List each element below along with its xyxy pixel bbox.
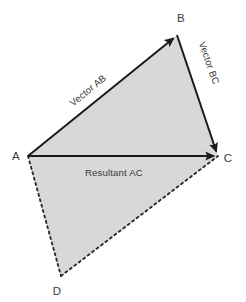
vector-diagram-svg: Vector AB Vector BC Resultant AC A B C D xyxy=(0,0,246,302)
edge-label-resultant-ac: Resultant AC xyxy=(85,167,143,178)
vertex-label-d: D xyxy=(53,285,62,297)
vector-diagram-canvas: Vector AB Vector BC Resultant AC A B C D xyxy=(0,0,246,302)
edge-label-vector-bc: Vector BC xyxy=(197,40,222,86)
vertex-label-a: A xyxy=(12,150,20,162)
vertex-label-b: B xyxy=(177,12,185,24)
vertex-label-c: C xyxy=(224,152,233,164)
